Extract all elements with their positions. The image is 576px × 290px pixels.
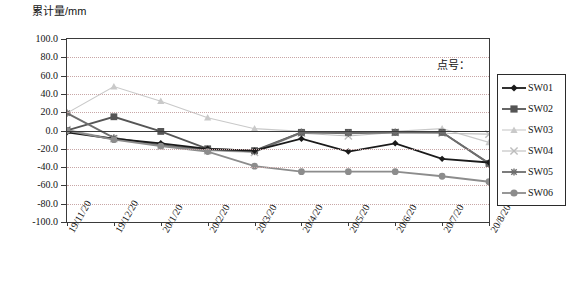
series-sw01 [67,129,489,166]
y-tick-label: 0.0 [8,126,58,136]
series-sw03 [67,83,489,145]
legend-label: SW02 [528,103,553,115]
x-marker-icon [501,144,527,158]
y-tick-mark [61,112,66,113]
legend: SW01SW02SW03SW04SW05SW06 [497,74,566,206]
square-marker-icon [501,102,527,116]
y-tick-mark [61,167,66,168]
legend-label: SW04 [528,145,553,157]
legend-item-sw05[interactable]: SW05 [501,162,565,182]
gridline [67,149,489,150]
legend-label: SW01 [528,82,553,94]
triangle-marker-icon [501,123,527,137]
gridline [67,112,489,113]
y-tick-label: 80.0 [8,52,58,62]
y-tick-label: 100.0 [8,34,58,44]
y-tick-mark [61,57,66,58]
legend-caption: 点号： [437,59,470,72]
star-marker-icon [501,165,527,179]
legend-label: SW05 [528,166,553,178]
chart-screenshot: 累计量/mm 100.080.060.040.020.00.0-20.0-40.… [0,0,576,290]
gridline [67,185,489,186]
plot-area [66,38,490,223]
y-tick-label: 60.0 [8,71,58,81]
legend-item-sw03[interactable]: SW03 [501,120,565,140]
gridline [67,57,489,58]
legend-item-sw04[interactable]: SW04 [501,141,565,161]
gridline [67,76,489,77]
y-tick-label: -60.0 [8,180,58,190]
legend-item-sw06[interactable]: SW06 [501,183,565,203]
y-tick-mark [61,131,66,132]
y-axis-title: 累计量/mm [32,5,86,18]
y-tick-label: -100.0 [8,217,58,227]
circle-marker-icon [501,186,527,200]
y-tick-mark [61,204,66,205]
legend-item-sw02[interactable]: SW02 [501,99,565,119]
y-tick-mark [61,149,66,150]
y-tick-mark [61,94,66,95]
y-tick-mark [61,185,66,186]
y-tick-label: -80.0 [8,199,58,209]
zero-axis-line [67,131,489,132]
y-tick-label: -40.0 [8,162,58,172]
series-sw06 [67,127,489,185]
diamond-marker-icon [501,81,527,95]
legend-label: SW06 [528,187,553,199]
y-tick-label: -20.0 [8,144,58,154]
y-tick-label: 40.0 [8,89,58,99]
series-sw05 [67,110,489,168]
x-tick-label: 20/8/20 [488,203,513,235]
gridline [67,167,489,168]
gridline [67,94,489,95]
y-tick-mark [61,76,66,77]
legend-label: SW03 [528,124,553,136]
y-tick-mark [61,39,66,40]
y-tick-mark [61,222,66,223]
y-tick-label: 20.0 [8,107,58,117]
legend-item-sw01[interactable]: SW01 [501,78,565,98]
